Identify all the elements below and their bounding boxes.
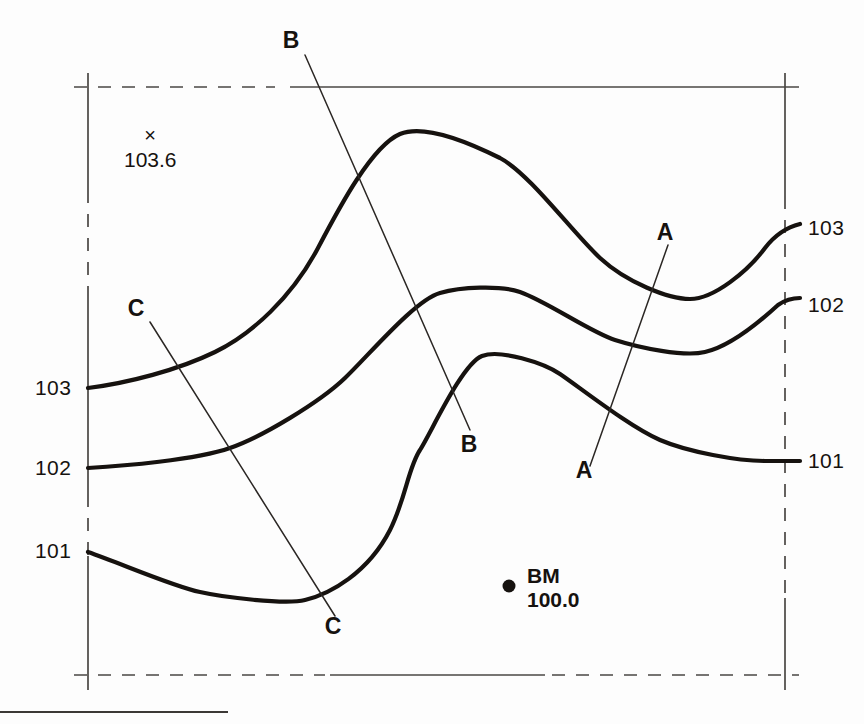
left-edge-labels-group: 103 102 101: [35, 376, 71, 562]
benchmark-dot-icon: [503, 580, 516, 593]
contour-line-101: [88, 354, 800, 601]
section-label-a-top: A: [657, 219, 674, 245]
benchmark-value: 100.0: [527, 588, 580, 611]
topographic-map-canvas: 103 102 101 103 102 101 B B A A C C × 10…: [0, 0, 864, 724]
contour-line-103: [88, 131, 800, 388]
section-label-c-bottom: C: [325, 613, 342, 639]
section-label-b-bottom: B: [461, 431, 478, 457]
section-line-c-c: [150, 322, 335, 616]
section-line-b-b: [305, 55, 470, 430]
spot-elevation-cross-icon: ×: [144, 124, 156, 146]
contour-line-102: [88, 288, 800, 468]
benchmark-group: BM 100.0: [503, 564, 580, 611]
right-edge-labels-group: 103 102 101: [808, 216, 844, 472]
section-label-b-top: B: [283, 27, 300, 53]
map-border-group: [74, 73, 799, 690]
spot-elevation-group: × 103.6: [124, 124, 177, 171]
contour-map-figure: 103 102 101 103 102 101 B B A A C C × 10…: [0, 0, 864, 724]
spot-elevation-value: 103.6: [124, 148, 177, 171]
section-labels-group: B B A A C C: [128, 27, 674, 639]
contour-label-right-102: 102: [808, 293, 844, 316]
benchmark-name: BM: [527, 564, 560, 587]
contour-label-left-103: 103: [35, 376, 71, 399]
contour-label-right-101: 101: [808, 449, 844, 472]
section-label-a-bottom: A: [576, 457, 593, 483]
section-lines-group: [150, 55, 668, 616]
contour-label-left-102: 102: [35, 456, 71, 479]
contour-label-left-101: 101: [35, 539, 71, 562]
contour-lines-group: [88, 131, 800, 601]
contour-label-right-103: 103: [808, 216, 844, 239]
section-label-c-top: C: [128, 295, 145, 321]
